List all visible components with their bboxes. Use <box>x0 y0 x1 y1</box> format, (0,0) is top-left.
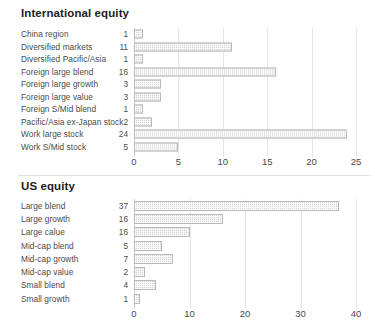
category-label: Mid-cap value <box>21 267 73 277</box>
value-label: 2 <box>106 117 128 127</box>
panel-divider <box>18 175 371 176</box>
value-label: 16 <box>106 227 128 237</box>
value-label: 11 <box>106 42 128 52</box>
bar-row: Diversified markets11 <box>0 41 375 54</box>
bar <box>134 294 140 304</box>
value-label: 16 <box>106 67 128 77</box>
x-tick-label: 10 <box>218 156 229 167</box>
bar <box>134 117 152 126</box>
value-label: 3 <box>106 92 128 102</box>
bar <box>134 241 162 251</box>
bar-row: Diversified Pacific/Asia1 <box>0 53 375 66</box>
bar-row: Mid-cap value2 <box>0 266 375 279</box>
category-label: Mid-cap growth <box>21 254 78 264</box>
value-label: 16 <box>106 214 128 224</box>
bar <box>134 201 339 211</box>
plot-area-us-equity: Large blend37Large growth16Large calue16… <box>0 199 375 305</box>
value-label: 1 <box>106 54 128 64</box>
bar-row: China region1 <box>0 28 375 41</box>
bar <box>134 142 178 151</box>
category-label: Work S/Mid stock <box>21 142 86 152</box>
value-label: 1 <box>106 29 128 39</box>
x-tick-label: 40 <box>351 308 362 319</box>
bar-row: Foreign large blend16 <box>0 66 375 79</box>
category-label: Large growth <box>21 214 70 224</box>
bar <box>134 280 156 290</box>
bar-row: Mid-cap blend5 <box>0 239 375 252</box>
x-tick-label: 0 <box>131 156 136 167</box>
bar-row: Foreign large growth3 <box>0 78 375 91</box>
bar-row: Mid-cap growth7 <box>0 252 375 265</box>
category-label: Large calue <box>21 227 65 237</box>
value-label: 1 <box>106 294 128 304</box>
bar <box>134 30 143 39</box>
category-label: Work large stock <box>21 129 83 139</box>
bar <box>134 80 161 89</box>
x-tick-label: 15 <box>262 156 273 167</box>
bar-row: Large calue16 <box>0 226 375 239</box>
x-tick-label: 0 <box>131 308 136 319</box>
category-label: Foreign large value <box>21 92 93 102</box>
bar <box>134 55 143 64</box>
value-label: 1 <box>106 104 128 114</box>
category-label: Small blend <box>21 280 65 290</box>
bar <box>134 105 143 114</box>
bar-row: Work large stock24 <box>0 128 375 141</box>
bar <box>134 42 232 51</box>
value-label: 2 <box>106 267 128 277</box>
x-tick-label: 20 <box>306 156 317 167</box>
value-label: 3 <box>106 79 128 89</box>
bar-row: Pacific/Asia ex-Japan stock2 <box>0 116 375 129</box>
bar-row: Small blend4 <box>0 279 375 292</box>
chart-panel-international-equity: International equity China region1Divers… <box>0 0 375 175</box>
x-tick-label: 30 <box>295 308 306 319</box>
plot-area-international-equity: China region1Diversified markets11Divers… <box>0 28 375 153</box>
category-label: Diversified markets <box>21 42 93 52</box>
bar-row: Work S/Mid stock5 <box>0 141 375 154</box>
bar <box>134 67 276 76</box>
category-label: Foreign large growth <box>21 79 98 89</box>
x-tick-label: 5 <box>176 156 181 167</box>
bar <box>134 254 173 264</box>
chart-panel-us-equity: US equity Large blend37Large growth16Lar… <box>0 175 375 320</box>
value-label: 5 <box>106 142 128 152</box>
bar <box>134 214 223 224</box>
category-label: Large blend <box>21 201 65 211</box>
x-axis-international-equity: 0510152025 <box>0 156 375 170</box>
x-tick-label: 20 <box>240 308 251 319</box>
bar-row: Small growth1 <box>0 292 375 305</box>
category-label: Foreign S/Mid blend <box>21 104 96 114</box>
x-tick-label: 25 <box>351 156 362 167</box>
value-label: 5 <box>106 241 128 251</box>
x-tick-label: 10 <box>184 308 195 319</box>
bar-rows-us-equity: Large blend37Large growth16Large calue16… <box>0 199 375 305</box>
bar <box>134 92 161 101</box>
value-label: 24 <box>106 129 128 139</box>
category-label: Small growth <box>21 294 70 304</box>
bar-row: Foreign large value3 <box>0 91 375 104</box>
bar-row: Foreign S/Mid blend1 <box>0 103 375 116</box>
x-axis-us-equity: 010203040 <box>0 308 375 320</box>
bar-rows-international-equity: China region1Diversified markets11Divers… <box>0 28 375 153</box>
chart-title-international-equity: International equity <box>21 7 129 19</box>
bar-row: Large growth16 <box>0 212 375 225</box>
chart-title-us-equity: US equity <box>21 180 75 192</box>
bar <box>134 130 347 139</box>
value-label: 37 <box>106 201 128 211</box>
category-label: China region <box>21 29 69 39</box>
category-label: Foreign large blend <box>21 67 93 77</box>
bar <box>134 227 190 237</box>
bar-row: Large blend37 <box>0 199 375 212</box>
category-label: Mid-cap blend <box>21 241 74 251</box>
value-label: 7 <box>106 254 128 264</box>
bar <box>134 267 145 277</box>
value-label: 4 <box>106 280 128 290</box>
category-label: Diversified Pacific/Asia <box>21 54 106 64</box>
